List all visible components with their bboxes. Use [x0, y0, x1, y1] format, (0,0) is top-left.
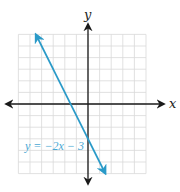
- equation-label: y = −2x − 3: [24, 139, 84, 153]
- coordinate-plane: x y y = −2x − 3: [0, 0, 180, 192]
- y-axis-label: y: [83, 7, 92, 22]
- x-axis-label: x: [169, 96, 177, 111]
